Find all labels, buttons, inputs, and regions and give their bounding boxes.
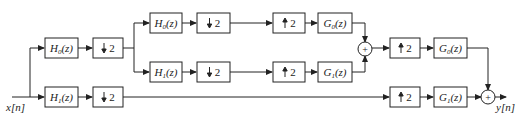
wire-b-g0-adder: [352, 23, 365, 42]
downsampler-block: 2: [93, 87, 123, 107]
upsampler-block: 2: [390, 87, 420, 107]
block-frame: [93, 38, 123, 58]
rate-factor: 2: [290, 17, 296, 29]
filter-bank-diagram: H0(z)2H1(z)2H0(z)2H1(z)22G0(z)2G1(z)2G0(…: [0, 0, 530, 117]
filter-block-g0: G0(z): [434, 38, 467, 58]
block-frame: [273, 13, 305, 33]
block-frame: [93, 87, 123, 107]
filter-block-g1: G1(z): [434, 87, 467, 107]
block-frame: [390, 87, 420, 107]
rate-factor: 2: [109, 91, 115, 103]
filter-label: G0(z): [323, 17, 346, 31]
adder-plus-symbol: +: [362, 44, 368, 55]
downsampler-block: 2: [197, 62, 230, 82]
block-frame: [390, 38, 420, 58]
adder-level2: +: [358, 42, 372, 56]
adder-output: +: [481, 90, 495, 104]
input-label: x[n]: [5, 101, 25, 113]
upsampler-block: 2: [390, 38, 420, 58]
block-frame: [197, 62, 230, 82]
rate-factor: 2: [215, 17, 221, 29]
filter-label: G1(z): [323, 66, 346, 80]
rate-factor: 2: [406, 91, 412, 103]
rate-factor: 2: [109, 42, 115, 54]
filter-label: G0(z): [439, 42, 462, 56]
wire-a-g0-adder2: [467, 48, 488, 90]
filter-label: G1(z): [439, 91, 462, 105]
downsampler-block: 2: [93, 38, 123, 58]
adder-plus-symbol: +: [485, 92, 491, 103]
filter-block-h0: H0(z): [45, 38, 78, 58]
filter-block-g1: G1(z): [318, 62, 352, 82]
filter-label: H0(z): [153, 17, 177, 31]
filter-label: H1(z): [153, 66, 177, 80]
wires: [12, 23, 506, 97]
rate-factor: 2: [215, 66, 221, 78]
wire-b-g1-adder: [352, 56, 365, 72]
downsampler-block: 2: [197, 13, 230, 33]
filter-block-h1: H1(z): [150, 62, 182, 82]
output-label: y[n]: [495, 101, 515, 113]
wire-to-b-h1: [134, 48, 149, 72]
wire-to-a-h0: [30, 48, 44, 97]
block-frame: [273, 62, 305, 82]
upsampler-block: 2: [273, 13, 305, 33]
filter-block-g0: G0(z): [318, 13, 352, 33]
filter-block-h0: H0(z): [150, 13, 182, 33]
block-frame: [197, 13, 230, 33]
filter-label: H1(z): [49, 91, 73, 105]
filter-block-h1: H1(z): [45, 87, 78, 107]
rate-factor: 2: [290, 66, 296, 78]
filter-label: H0(z): [49, 42, 73, 56]
wire-to-b-h0: [134, 23, 149, 48]
upsampler-block: 2: [273, 62, 305, 82]
rate-factor: 2: [406, 42, 412, 54]
